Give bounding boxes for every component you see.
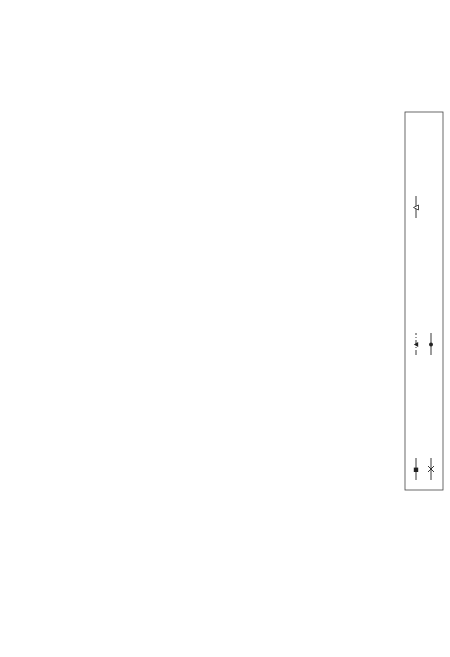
- legend: [405, 112, 443, 490]
- rotated-line-chart: [0, 0, 450, 657]
- legend-box: [405, 112, 443, 490]
- circle-marker-icon: [429, 343, 433, 347]
- square-marker-icon: [414, 468, 418, 472]
